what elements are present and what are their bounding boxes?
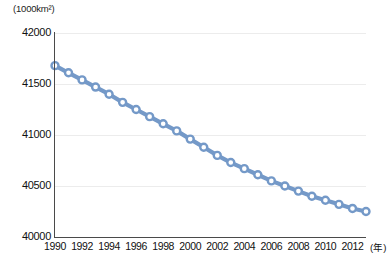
data-point-marker xyxy=(281,183,288,190)
x-axis-line xyxy=(54,237,366,238)
x-axis-tick-label: 2002 xyxy=(206,240,228,252)
x-axis-tick-label: 2006 xyxy=(260,240,282,252)
data-point-marker xyxy=(308,193,315,200)
data-point-marker xyxy=(268,177,275,184)
data-point-marker xyxy=(119,99,126,106)
data-point-marker xyxy=(214,152,221,159)
data-point-marker xyxy=(65,69,72,76)
line-series-kochi-menseki xyxy=(55,33,366,237)
y-axis-tick-label: 41000 xyxy=(7,128,51,140)
x-axis-tick-label: 2010 xyxy=(315,240,337,252)
data-point-marker xyxy=(146,113,153,120)
x-axis-tick-label: 2004 xyxy=(233,240,255,252)
x-axis-tick-label: 1990 xyxy=(44,240,66,252)
y-axis-tick-label: 40500 xyxy=(7,179,51,191)
data-point-marker xyxy=(335,201,342,208)
y-axis-tick-label: 42000 xyxy=(7,26,51,38)
data-point-marker xyxy=(79,76,86,83)
data-point-marker xyxy=(92,84,99,91)
data-point-marker xyxy=(200,144,207,151)
y-axis-tick-labels: 4000040500410004150042000 xyxy=(3,0,51,261)
data-point-marker xyxy=(241,165,248,172)
y-axis-line xyxy=(54,32,55,238)
data-point-marker xyxy=(160,120,167,127)
x-axis-tick-label: 1996 xyxy=(125,240,147,252)
x-axis-tick-label: 2000 xyxy=(179,240,201,252)
data-point-marker xyxy=(295,188,302,195)
data-point-marker xyxy=(187,136,194,143)
data-point-marker xyxy=(254,171,261,178)
data-point-marker xyxy=(322,197,329,204)
data-point-marker xyxy=(133,106,140,113)
data-point-marker xyxy=(227,159,234,166)
y-axis-tick-label: 41500 xyxy=(7,77,51,89)
x-axis-tick-label: 1998 xyxy=(152,240,174,252)
chart-container: (1000km²) 4000040500410004150042000 1990… xyxy=(0,0,392,261)
data-point-marker xyxy=(349,205,356,212)
data-point-marker xyxy=(173,127,180,134)
series-line xyxy=(55,66,366,212)
x-axis-tick-label: 2008 xyxy=(288,240,310,252)
plot-area xyxy=(55,33,366,237)
x-axis-tick-label: 2012 xyxy=(342,240,364,252)
x-axis-tick-label: 1992 xyxy=(71,240,93,252)
x-axis-unit-label: (年) xyxy=(370,240,386,254)
x-axis-tick-label: 1994 xyxy=(98,240,120,252)
data-point-marker xyxy=(106,91,113,98)
data-point-marker xyxy=(363,208,370,215)
